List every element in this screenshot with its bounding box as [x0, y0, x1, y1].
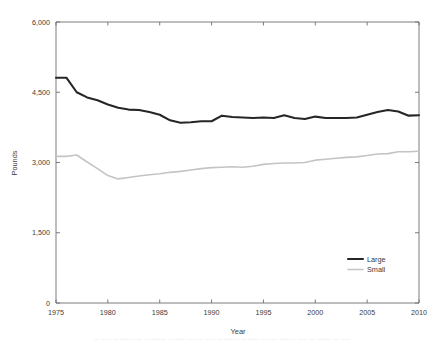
plot-frame — [56, 22, 419, 303]
x-axis-ticks — [56, 22, 419, 303]
y-tick-label: 6,000 — [32, 18, 50, 27]
y-axis-tick-labels: 01,5003,0004,5006,000 — [32, 18, 50, 308]
x-tick-label: 1975 — [48, 308, 64, 317]
legend-label-small: Small — [367, 265, 386, 274]
y-tick-label: 4,500 — [32, 88, 50, 97]
legend-label-large: Large — [367, 255, 386, 264]
series-line-small — [56, 151, 419, 179]
y-tick-label: 1,500 — [32, 228, 50, 237]
chart-legend: LargeSmall — [348, 255, 386, 275]
y-axis-title: Pounds — [10, 150, 19, 175]
cut-off-caption: — —— — —— —— — ——— — —— —— — —— — ——— — … — [0, 332, 445, 346]
x-tick-label: 2005 — [359, 308, 375, 317]
line-chart: 19751980198519901995200020052010 01,5003… — [0, 0, 445, 346]
x-tick-label: 1985 — [152, 308, 168, 317]
chart-figure: 19751980198519901995200020052010 01,5003… — [0, 0, 445, 346]
series-line-large — [56, 78, 419, 123]
data-series-group — [56, 78, 419, 179]
y-tick-label: 3,000 — [32, 158, 50, 167]
x-tick-label: 1980 — [100, 308, 116, 317]
x-tick-label: 2000 — [307, 308, 323, 317]
x-tick-label: 1995 — [255, 308, 271, 317]
y-axis-ticks — [56, 22, 419, 303]
x-axis-tick-labels: 19751980198519901995200020052010 — [48, 308, 427, 317]
x-tick-label: 2010 — [411, 308, 427, 317]
y-tick-label: 0 — [46, 299, 50, 308]
x-tick-label: 1990 — [204, 308, 220, 317]
